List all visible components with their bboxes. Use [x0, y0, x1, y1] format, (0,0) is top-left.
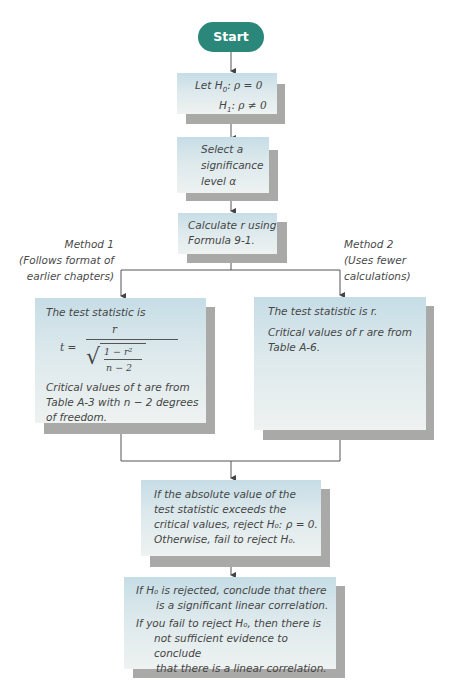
method1-label: Method 1 (Follows format of earlier chap… [0, 236, 114, 284]
method2-box: The test statistic is r. Critical values… [254, 297, 426, 430]
method2-intro: The test statistic is r. [268, 304, 426, 319]
formula-den-bottom: n − 2 [106, 360, 132, 375]
hypotheses-box: Let H0: ρ = 0 H1: ρ ≠ 0 [177, 73, 277, 114]
start-label: Start [213, 29, 249, 44]
conclusion-line: not sufficient evidence to conclude [136, 631, 336, 661]
sqrt-sign: √ [86, 344, 100, 370]
formula-den-top: 1 − r² [104, 344, 132, 359]
h0-rest: : ρ = 0 [227, 79, 262, 91]
start-terminal: Start [198, 22, 264, 52]
calculate-line: Formula 9-1. [188, 233, 277, 248]
method2-crit: Table A-6. [268, 340, 426, 355]
calculate-box: Calculate r using Formula 9-1. [178, 213, 277, 254]
significance-line: Select a [201, 141, 269, 157]
conclusion-line: If you fail to reject H₀, then there is [136, 616, 336, 631]
decision-box: If the absolute value of the test statis… [141, 480, 321, 556]
calculate-line: Calculate r using [188, 218, 277, 233]
decision-line: If the absolute value of the [154, 487, 321, 502]
method1-intro: The test statistic is [46, 305, 206, 320]
significance-line: significance [201, 157, 269, 173]
decision-line: critical values, reject H₀: ρ = 0. [154, 517, 321, 532]
significance-box: Select a significance level α [177, 137, 269, 193]
h1-prefix: H [219, 99, 227, 111]
conclusion-line: that there is a linear correlation. [136, 661, 336, 676]
decision-line: test statistic exceeds the [154, 502, 321, 517]
significance-line: level α [201, 173, 269, 189]
method1-desc: earlier chapters) [0, 268, 114, 284]
conclusion-line: If H₀ is rejected, conclude that there [136, 583, 336, 598]
method2-title: Method 2 [344, 236, 444, 252]
method1-box: The test statistic is t = r √ 1 − r² n −… [35, 298, 206, 423]
method1-desc: (Follows format of [0, 252, 114, 268]
method1-crit: of freedom. [46, 410, 206, 425]
method2-label: Method 2 (Uses fewer calculations) [344, 236, 444, 284]
t-formula: t = r √ 1 − r² n − 2 [46, 320, 206, 376]
h1-rest: : ρ ≠ 0 [231, 99, 266, 111]
method2-desc: calculations) [344, 268, 444, 284]
method2-crit: Critical values of r are from [268, 325, 426, 340]
decision-line: Otherwise, fail to reject H₀. [154, 532, 321, 547]
formula-numerator: r [112, 322, 117, 337]
method1-crit: Table A-3 with n − 2 degrees [46, 395, 206, 410]
conclusion-box: If H₀ is rejected, conclude that there i… [124, 577, 336, 669]
method2-desc: (Uses fewer [344, 252, 444, 268]
hypothesis-null: Let H0: ρ = 0 [195, 78, 277, 98]
method1-crit: Critical values of t are from [46, 380, 206, 395]
fraction-bar [86, 339, 178, 340]
method1-title: Method 1 [0, 236, 114, 252]
h0-prefix: Let H [195, 79, 223, 91]
hypothesis-alt: H1: ρ ≠ 0 [195, 98, 277, 118]
conclusion-line: is a significant linear correlation. [136, 598, 336, 613]
formula-lhs: t = [60, 340, 76, 355]
